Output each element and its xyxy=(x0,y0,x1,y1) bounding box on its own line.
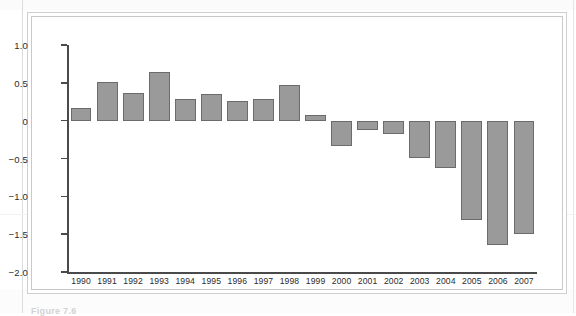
bar-1998 xyxy=(279,85,300,121)
x-tick-label-2002: 2002 xyxy=(381,276,407,286)
figure-caption: Figure 7.6 xyxy=(31,306,77,316)
y-tick-label: −0.5 xyxy=(8,153,28,164)
bar-1995 xyxy=(201,94,222,120)
bar-2004 xyxy=(435,121,456,168)
y-tick-label: 0.5 xyxy=(14,77,28,88)
plot-area xyxy=(68,45,537,272)
x-tick-label-1997: 1997 xyxy=(250,276,276,286)
y-tick-mark xyxy=(61,271,67,272)
x-tick-label-2001: 2001 xyxy=(355,276,381,286)
bar-chart: 1.00.50−0.5−1.0−1.5−2.0 1990199119921993… xyxy=(32,17,562,289)
y-tick-label: 0 xyxy=(23,115,28,126)
x-tick-label-1998: 1998 xyxy=(276,276,302,286)
x-tick-label-2006: 2006 xyxy=(485,276,511,286)
y-tick-mark xyxy=(61,120,67,121)
bar-1996 xyxy=(227,101,248,121)
bar-1993 xyxy=(149,72,170,120)
x-tick-label-2000: 2000 xyxy=(329,276,355,286)
y-tick-mark xyxy=(61,82,67,83)
bar-2005 xyxy=(461,121,482,220)
bar-2007 xyxy=(514,121,535,235)
y-tick-label: −1.5 xyxy=(8,229,28,240)
bar-1992 xyxy=(123,93,144,120)
x-tick-label-1995: 1995 xyxy=(198,276,224,286)
x-tick-label-1996: 1996 xyxy=(224,276,250,286)
bar-2006 xyxy=(487,121,508,245)
bar-2001 xyxy=(357,121,378,131)
x-tick-label-2003: 2003 xyxy=(407,276,433,286)
page-right-edge xyxy=(573,0,574,313)
y-tick-mark xyxy=(61,158,67,159)
x-tick-label-2005: 2005 xyxy=(459,276,485,286)
y-tick-label: −2.0 xyxy=(8,267,28,278)
bar-1991 xyxy=(97,82,118,121)
x-tick-label-1994: 1994 xyxy=(172,276,198,286)
bar-1999 xyxy=(305,115,326,121)
figure-frame: 1.00.50−0.5−1.0−1.5−2.0 1990199119921993… xyxy=(27,12,567,294)
x-tick-label-2004: 2004 xyxy=(433,276,459,286)
x-tick-label-1993: 1993 xyxy=(146,276,172,286)
bar-2003 xyxy=(409,121,430,159)
y-tick-label: 1.0 xyxy=(14,40,28,51)
x-tick-label-2007: 2007 xyxy=(511,276,537,286)
bar-2002 xyxy=(383,121,404,135)
y-tick-mark xyxy=(61,44,67,45)
bar-1994 xyxy=(175,99,196,121)
y-tick-mark xyxy=(61,196,67,197)
bar-1990 xyxy=(71,108,92,121)
x-tick-label-1990: 1990 xyxy=(68,276,94,286)
x-tick-label-1992: 1992 xyxy=(120,276,146,286)
y-tick-mark xyxy=(61,233,67,234)
x-tick-label-1991: 1991 xyxy=(94,276,120,286)
page-top-wash xyxy=(0,0,576,10)
x-tick-label-1999: 1999 xyxy=(303,276,329,286)
x-axis-line xyxy=(67,272,537,274)
y-tick-label: −1.0 xyxy=(8,191,28,202)
bar-2000 xyxy=(331,121,352,146)
bar-1997 xyxy=(253,99,274,120)
figure-frame-inner: 1.00.50−0.5−1.0−1.5−2.0 1990199119921993… xyxy=(31,16,563,290)
